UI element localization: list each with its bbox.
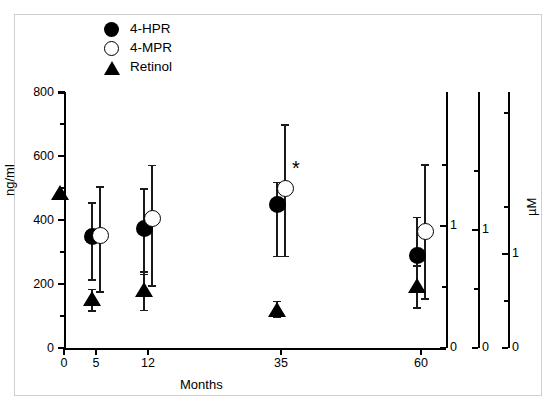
right-axis-line-1 bbox=[446, 92, 448, 348]
data-point-retinol bbox=[408, 278, 426, 293]
error-bar-cap bbox=[148, 165, 156, 167]
right-axis-line-2 bbox=[478, 92, 480, 348]
x-axis-tick-label: 5 bbox=[76, 357, 116, 370]
error-bar-cap bbox=[140, 188, 148, 190]
error-bar-cap bbox=[88, 279, 96, 281]
y-axis-tick bbox=[58, 283, 65, 285]
y-axis-title: ng/ml bbox=[2, 164, 17, 196]
data-point-retinol bbox=[51, 185, 69, 200]
right-axis-tick-label: 0 bbox=[512, 341, 519, 354]
data-point-retinol bbox=[135, 282, 153, 297]
significance-asterisk: * bbox=[292, 158, 300, 178]
right-axis-tick bbox=[472, 347, 478, 348]
error-bar-cap bbox=[281, 256, 289, 258]
data-point-4-mpr bbox=[277, 180, 294, 197]
error-bar-cap bbox=[88, 202, 96, 204]
data-point-retinol bbox=[83, 291, 101, 306]
y-axis-minor-tick bbox=[60, 315, 65, 316]
y-axis-tick-label: 400 bbox=[14, 214, 54, 227]
figure-root: 4-HPR 4-MPR Retinol ng/ml Months 0200400… bbox=[0, 0, 558, 410]
y-axis-tick-label: 800 bbox=[14, 86, 54, 99]
data-point-4-mpr bbox=[144, 210, 161, 227]
y-axis-tick-label: 600 bbox=[14, 150, 54, 163]
right-axis-minor-tick bbox=[504, 300, 508, 301]
x-axis-tick bbox=[63, 348, 65, 355]
data-point-4-mpr bbox=[92, 227, 109, 244]
y-axis-tick-label: 200 bbox=[14, 278, 54, 291]
right-axis-tick bbox=[472, 229, 478, 230]
legend-label: 4-MPR bbox=[130, 40, 172, 56]
x-axis-tick bbox=[280, 348, 282, 355]
right-axis-minor-tick bbox=[474, 170, 478, 171]
y-axis-minor-tick bbox=[60, 251, 65, 252]
right-axis-tick bbox=[502, 253, 508, 254]
right-axis-title: µM bbox=[524, 198, 539, 216]
open-circle-icon bbox=[104, 41, 119, 56]
y-axis-minor-tick bbox=[60, 123, 65, 124]
right-axis-minor-tick bbox=[474, 288, 478, 289]
right-axis-minor-tick bbox=[442, 286, 446, 287]
y-axis-tick-label: 0 bbox=[14, 342, 54, 355]
x-axis-tick bbox=[147, 348, 149, 355]
filled-circle-icon bbox=[104, 22, 119, 37]
error-bar-cap bbox=[140, 310, 148, 312]
right-axis-line-3 bbox=[508, 92, 510, 348]
right-axis-tick-label: 1 bbox=[450, 219, 457, 232]
error-bar-cap bbox=[421, 164, 429, 166]
error-bar-cap bbox=[421, 298, 429, 300]
right-axis-tick-label: 1 bbox=[512, 247, 519, 260]
y-axis-tick bbox=[58, 155, 65, 157]
filled-triangle-icon bbox=[104, 61, 120, 75]
right-axis-minor-tick bbox=[504, 112, 508, 113]
right-axis-tick-label: 0 bbox=[450, 341, 457, 354]
data-point-4-hpr bbox=[269, 196, 286, 213]
x-axis-title: Months bbox=[180, 377, 223, 392]
right-axis-tick bbox=[440, 347, 446, 348]
x-axis-tick-label: 12 bbox=[128, 357, 168, 370]
x-axis-line bbox=[64, 348, 446, 350]
right-axis-minor-tick bbox=[504, 206, 508, 207]
error-bar-cap bbox=[413, 307, 421, 309]
error-bar-cap bbox=[88, 289, 96, 291]
right-axis-tick bbox=[440, 225, 446, 226]
x-axis-tick-label: 35 bbox=[261, 357, 301, 370]
x-axis-tick-label: 60 bbox=[401, 357, 441, 370]
error-bar-cap bbox=[281, 124, 289, 126]
x-axis-tick bbox=[420, 348, 422, 355]
data-point-4-hpr bbox=[409, 247, 426, 264]
error-bar-cap bbox=[413, 265, 421, 267]
data-point-retinol bbox=[268, 302, 286, 317]
right-axis-tick-label: 1 bbox=[482, 223, 489, 236]
y-axis-tick bbox=[58, 91, 65, 93]
error-bar-cap bbox=[140, 271, 148, 273]
right-axis-minor-tick bbox=[442, 164, 446, 165]
plot-area: 4-HPR 4-MPR Retinol ng/ml Months 0200400… bbox=[0, 0, 558, 410]
legend-label: Retinol bbox=[130, 59, 172, 75]
right-axis-tick bbox=[502, 347, 508, 348]
error-bar-cap bbox=[88, 310, 96, 312]
error-bar-cap bbox=[96, 186, 104, 188]
x-axis-tick bbox=[95, 348, 97, 355]
error-bar-cap bbox=[413, 217, 421, 219]
error-bar-cap bbox=[273, 256, 281, 258]
y-axis-tick bbox=[58, 219, 65, 221]
legend-label: 4-HPR bbox=[130, 21, 171, 37]
data-point-4-mpr bbox=[417, 223, 434, 240]
right-axis-tick-label: 0 bbox=[482, 341, 489, 354]
